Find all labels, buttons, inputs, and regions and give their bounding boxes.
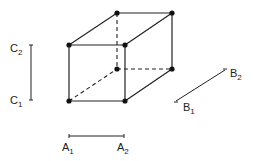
vertex-dot (122, 42, 127, 47)
c2-label: C2 (10, 42, 23, 57)
vertex-dot (66, 98, 71, 103)
cube-diagram: C2 C1 B2 B1 A1 A2 (0, 0, 254, 161)
vertex-dot (169, 66, 174, 71)
b1-label: B1 (183, 101, 195, 116)
c1-label: C1 (10, 94, 23, 109)
hidden-edges (69, 13, 172, 101)
vertex-dot (122, 98, 127, 103)
edge (125, 13, 172, 45)
vertex-dot (114, 66, 119, 71)
vertices (66, 10, 174, 103)
cube-diagram-svg: C2 C1 B2 B1 A1 A2 (0, 0, 254, 161)
a1-label: A1 (62, 141, 74, 156)
b-axis (174, 69, 227, 102)
edge (125, 69, 172, 101)
a2-label: A2 (117, 141, 129, 156)
b2-label: B2 (230, 67, 242, 82)
a-axis (69, 134, 124, 138)
edge (69, 13, 117, 45)
vertex-dot (66, 42, 71, 47)
cube-edges (69, 13, 172, 101)
c-axis (29, 45, 33, 100)
vertex-dot (114, 10, 119, 15)
hidden-edge (69, 69, 117, 101)
vertex-dot (169, 10, 174, 15)
